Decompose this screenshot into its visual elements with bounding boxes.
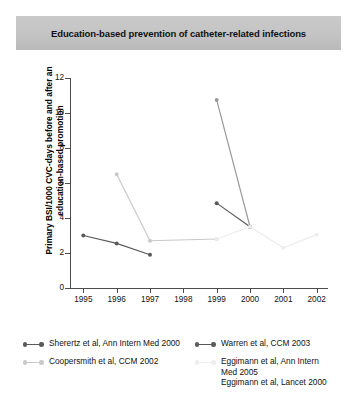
data-point <box>115 241 119 245</box>
legend-item-coopersmith[interactable]: Coopersmith et al, CCM 2002 <box>22 356 158 367</box>
x-tick-label: 2002 <box>297 296 337 304</box>
data-point <box>81 234 85 238</box>
line-dot-marker-icon <box>22 340 44 349</box>
data-point <box>215 98 219 102</box>
legend-label-eggimann: Eggimann et al, Ann Intern Med 2005 Eggi… <box>221 356 327 388</box>
data-point <box>148 253 152 257</box>
data-point <box>248 225 252 229</box>
title-banner: Education-based prevention of catheter-r… <box>16 16 341 52</box>
legend-label-warren: Warren et al, CCM 2003 <box>221 338 310 349</box>
data-point <box>115 172 119 176</box>
series-line <box>217 227 317 248</box>
series-layer <box>70 78 330 293</box>
y-tick-label: 8 <box>24 144 64 152</box>
data-point <box>215 237 219 241</box>
y-tick-label: 10 <box>24 109 64 117</box>
line-dot-marker-icon <box>194 358 216 367</box>
page-title: Education-based prevention of catheter-r… <box>51 28 306 39</box>
chart-container: Primary BSI/1000 CVC-days before and aft… <box>16 54 341 324</box>
legend-label-coopersmith: Coopersmith et al, CCM 2002 <box>49 356 158 367</box>
slide-root: Education-based prevention of catheter-r… <box>0 0 357 410</box>
chart-legend: Sherertz et al, Ann Intern Med 2000 Coop… <box>16 334 341 396</box>
y-tick-label: 6 <box>24 179 64 187</box>
y-tick-label: 12 <box>24 74 64 82</box>
y-axis-label: Primary BSI/1000 CVC-days before and aft… <box>44 61 65 261</box>
series-line <box>117 174 217 241</box>
data-point <box>315 233 319 237</box>
legend-item-eggimann[interactable]: Eggimann et al, Ann Intern Med 2005 Eggi… <box>194 356 327 388</box>
line-dot-marker-icon <box>194 340 216 349</box>
line-dot-marker-icon <box>22 358 44 367</box>
y-tick-label: 2 <box>24 249 64 257</box>
plot-area: 024681012 199519961997199819992000200120… <box>70 78 330 288</box>
legend-item-warren[interactable]: Warren et al, CCM 2003 <box>194 338 310 349</box>
data-point <box>215 201 219 205</box>
data-point <box>148 239 152 243</box>
data-point <box>281 246 285 250</box>
y-tick-label: 0 <box>24 284 64 292</box>
legend-item-sherertz[interactable]: Sherertz et al, Ann Intern Med 2000 <box>22 338 180 349</box>
series-line <box>217 100 250 227</box>
legend-label-sherertz: Sherertz et al, Ann Intern Med 2000 <box>49 338 180 349</box>
y-tick-label: 4 <box>24 214 64 222</box>
